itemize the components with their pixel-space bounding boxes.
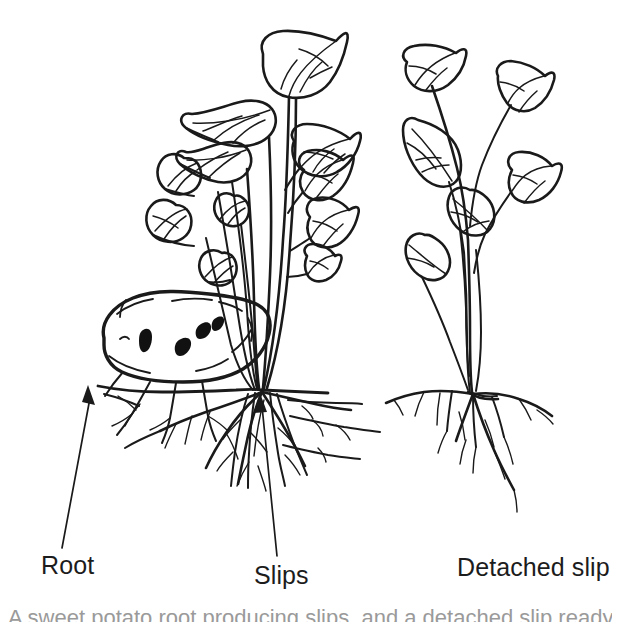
leaf-right-lower [307,198,359,248]
slip-root-system [386,391,553,512]
left-root-system [98,372,380,491]
label-slips: Slips [254,562,309,588]
slip-stems-right [422,86,511,399]
slip-leaf-right-mid [508,152,562,203]
leaf-upper-left [181,101,275,147]
slip-leaf-top-left [403,45,466,91]
label-detached-slip: Detached slip ready for replanting [457,502,610,622]
leaf-right-tiny [305,244,342,281]
figure-root: Root Slips Detached slip ready for repla… [0,0,620,622]
root-leader-line [62,385,95,548]
slip-leaf-left-low [406,234,450,281]
clipped-bottom-caption: A sweet potato root producing slips, and… [8,606,612,622]
left-plant-foliage [146,31,360,390]
slip-leaf-top-right [497,61,555,112]
leaf-top-center [262,31,348,98]
label-detached-line-1: Detached slip [457,554,610,580]
sweet-potato-tuber [103,291,270,382]
detached-slip [386,45,562,512]
label-root: Root [41,552,94,578]
